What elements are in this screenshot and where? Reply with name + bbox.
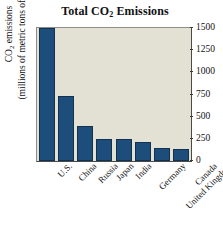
x-category-label: Germany [157,161,188,192]
y-tick-mark [190,116,193,117]
y-axis-title-line1-main: CO [4,49,14,62]
y-tick-mark [190,94,193,95]
x-category-label: Japan [114,161,136,183]
y-tick-label: 1000 [196,67,215,76]
x-axis-category-labels: U.S.ChinaRussiaJapanIndiaGermanyUnited K… [36,161,196,227]
y-tick-label: 250 [196,133,210,142]
y-tick-label: 0 [196,156,201,165]
chart-title: Total CO2 Emissions [30,4,200,19]
y-axis-title-line1-tail: emissions [4,6,14,46]
x-category-label: U.S. [55,161,73,179]
y-tick-label: 1250 [196,45,215,54]
y-tick-mark [190,27,193,28]
chart-title-subscript: 2 [109,10,113,19]
y-tick-label: 500 [196,111,210,120]
y-tick-mark [190,138,193,139]
y-axis-title-line1: CO2 emissions [3,6,16,63]
y-tick-label: 1500 [196,23,215,32]
y-tick-mark [190,71,193,72]
chart-title-main: Total CO [61,4,109,18]
y-axis-title: CO2 emissions (millions of metric tons o… [1,0,29,109]
y-axis-ticks: 0250500750100012501500 [36,27,190,160]
y-tick-label: 750 [196,89,210,98]
y-axis-title-line1-subscript: 2 [8,46,16,50]
y-tick-mark [190,49,193,50]
y-axis-title-line2: (millions of metric tons of carbon) [16,0,28,100]
x-category-label: China [76,161,98,183]
chart-title-tail: Emissions [113,4,168,18]
x-category-label: India [133,161,153,181]
chart-figure: Total CO2 Emissions CO2 emissions (milli… [0,0,223,229]
